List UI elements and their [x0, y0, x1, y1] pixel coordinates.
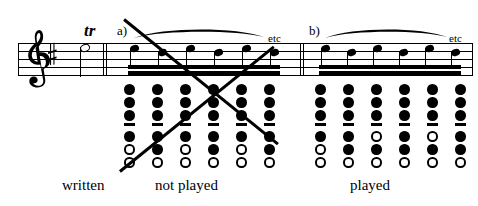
beam-upper	[319, 65, 461, 69]
hole-closed-icon	[124, 84, 135, 95]
hole-closed-icon	[124, 97, 135, 108]
hole-closed-icon	[315, 84, 326, 95]
hole-closed-icon	[455, 84, 466, 95]
hole-open-icon	[427, 157, 438, 168]
hole-divider-bar	[124, 123, 135, 126]
hole-closed-icon	[208, 144, 219, 155]
staff-line-1	[18, 75, 473, 76]
hole-closed-icon	[236, 97, 247, 108]
caption-played: played	[350, 178, 390, 193]
hole-closed-icon	[343, 131, 354, 142]
hole-closed-icon	[152, 110, 163, 121]
hole-closed-icon	[236, 84, 247, 95]
hole-closed-icon	[208, 110, 219, 121]
hole-closed-icon	[427, 110, 438, 121]
beam-lower	[319, 71, 461, 75]
hole-open-icon	[180, 157, 191, 168]
section-label-b: b)	[309, 24, 320, 37]
slur-b	[324, 26, 448, 44]
hole-open-icon	[152, 157, 163, 168]
hole-closed-icon	[124, 110, 135, 121]
etc-label-b: etc	[449, 33, 462, 44]
hole-closed-icon	[315, 110, 326, 121]
hole-open-icon	[124, 144, 135, 155]
hole-open-icon	[399, 157, 410, 168]
hole-open-icon	[315, 144, 326, 155]
hole-divider-bar	[152, 123, 163, 126]
hole-open-icon	[371, 157, 382, 168]
hole-closed-icon	[399, 110, 410, 121]
sharp-icon	[48, 40, 59, 69]
hole-divider-bar	[264, 123, 275, 126]
hole-divider-bar	[208, 123, 219, 126]
hole-closed-icon	[152, 97, 163, 108]
hole-closed-icon	[152, 84, 163, 95]
hole-closed-icon	[371, 110, 382, 121]
hole-closed-icon	[455, 131, 466, 142]
hole-closed-icon	[399, 144, 410, 155]
hole-closed-icon	[343, 144, 354, 155]
hole-closed-icon	[180, 97, 191, 108]
beam-lower	[128, 71, 280, 75]
hole-closed-icon	[264, 97, 275, 108]
hole-closed-icon	[208, 131, 219, 142]
beam-upper	[128, 65, 280, 69]
hole-open-icon	[315, 157, 326, 168]
hole-closed-icon	[371, 97, 382, 108]
hole-open-icon	[343, 157, 354, 168]
hole-closed-icon	[264, 144, 275, 155]
hole-open-icon	[208, 157, 219, 168]
hole-closed-icon	[371, 84, 382, 95]
hole-closed-icon	[236, 131, 247, 142]
hole-open-icon	[264, 157, 275, 168]
hole-closed-icon	[455, 110, 466, 121]
hole-closed-icon	[427, 84, 438, 95]
hole-divider-bar	[455, 123, 466, 126]
hole-closed-icon	[343, 97, 354, 108]
hole-open-icon	[371, 131, 382, 142]
hole-closed-icon	[315, 97, 326, 108]
hole-closed-icon	[343, 110, 354, 121]
hole-closed-icon	[399, 131, 410, 142]
barline-2	[300, 43, 301, 76]
trill-marking: tr	[84, 22, 95, 39]
hole-divider-bar	[427, 123, 438, 126]
hole-closed-icon	[180, 131, 191, 142]
hole-divider-bar	[315, 123, 326, 126]
hole-closed-icon	[124, 131, 135, 142]
hole-closed-icon	[399, 84, 410, 95]
hole-open-icon	[455, 157, 466, 168]
hole-divider-bar	[399, 123, 410, 126]
hole-divider-bar	[343, 123, 354, 126]
hole-open-icon	[427, 131, 438, 142]
hole-closed-icon	[455, 144, 466, 155]
hole-closed-icon	[315, 131, 326, 142]
hole-open-icon	[236, 144, 247, 155]
hole-divider-bar	[236, 123, 247, 126]
hole-closed-icon	[371, 144, 382, 155]
barline-start	[18, 43, 19, 76]
hole-open-icon	[180, 144, 191, 155]
barline-1	[103, 43, 104, 76]
staff-line-3	[18, 59, 473, 60]
etc-label-a: etc	[268, 33, 281, 44]
hole-closed-icon	[264, 110, 275, 121]
hole-open-icon	[236, 157, 247, 168]
barline-end	[472, 43, 473, 76]
hole-closed-icon	[180, 84, 191, 95]
section-label-a: a)	[117, 24, 127, 37]
figure-root: tr a) etc	[0, 0, 478, 206]
barline-2b	[303, 43, 304, 76]
hole-closed-icon	[264, 84, 275, 95]
hole-closed-icon	[343, 84, 354, 95]
barline-1b	[106, 43, 107, 76]
note-stem	[80, 47, 82, 77]
hole-closed-icon	[427, 144, 438, 155]
hole-closed-icon	[399, 97, 410, 108]
hole-divider-bar	[371, 123, 382, 126]
caption-not-played: not played	[155, 178, 218, 193]
hole-closed-icon	[427, 97, 438, 108]
caption-written: written	[62, 178, 105, 193]
hole-closed-icon	[455, 97, 466, 108]
